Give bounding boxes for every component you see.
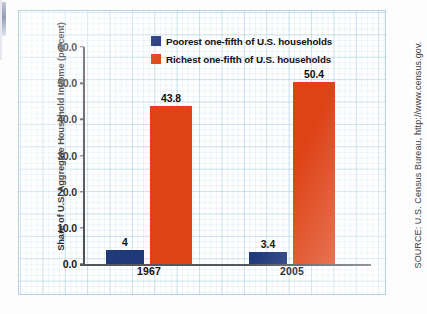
y-tick-mark-20: [80, 191, 84, 192]
y-tick-label-40: 40.0: [57, 113, 77, 125]
y-tick-mark-40: [80, 119, 84, 120]
bar-value-2005-richest: 50.4: [304, 69, 324, 80]
x-axis-line: [80, 264, 371, 266]
scanned-page: Share of U.S. Aggregate Household Income…: [0, 0, 427, 314]
bar-2005-poorest[interactable]: 3.4: [249, 252, 287, 264]
y-tick-mark-30: [80, 155, 84, 156]
bar-1967-richest[interactable]: 43.8: [150, 106, 192, 264]
y-tick-label-30: 30.0: [57, 150, 77, 162]
legend-label-poorest: Poorest one-fifth of U.S. households: [166, 36, 332, 47]
bar-2005-richest[interactable]: 50.4: [293, 82, 335, 264]
chart-panel: Share of U.S. Aggregate Household Income…: [18, 10, 386, 295]
legend-swatch-poorest-icon: [151, 36, 161, 46]
bar-value-2005-poorest: 3.4: [261, 239, 275, 250]
y-axis-title: Share of U.S. Aggregate Household Income…: [55, 22, 66, 252]
y-tick-label-0: 0.0: [63, 258, 77, 270]
x-tick-label-1967: 1967: [137, 266, 161, 277]
y-tick-mark-10: [80, 227, 84, 228]
bar-value-1967-poorest: 4: [122, 237, 128, 248]
bar-group-2005: 3.4 50.4 2005: [243, 47, 348, 264]
y-tick-mark-50: [80, 82, 84, 83]
bar-1967-poorest[interactable]: 4: [106, 250, 144, 264]
y-tick-mark-60: [80, 46, 84, 47]
y-tick-label-10: 10.0: [57, 222, 77, 234]
x-tick-label-2005: 2005: [280, 266, 304, 277]
plot-area: 60.0 50.0 40.0 30.0 20.0 10.0 0.0 4 43.8: [83, 47, 371, 264]
bar-group-1967: 4 43.8 1967: [100, 47, 205, 264]
y-tick-mark-0: [80, 263, 84, 264]
page-edge-artifact: [2, 2, 6, 36]
y-tick-label-50: 50.0: [57, 77, 77, 89]
source-note: SOURCE: U.S. Census Bureau, http://www.c…: [413, 37, 423, 273]
y-tick-label-20: 20.0: [57, 186, 77, 198]
bar-value-1967-richest: 43.8: [161, 93, 181, 104]
y-tick-label-60: 60.0: [57, 41, 77, 53]
